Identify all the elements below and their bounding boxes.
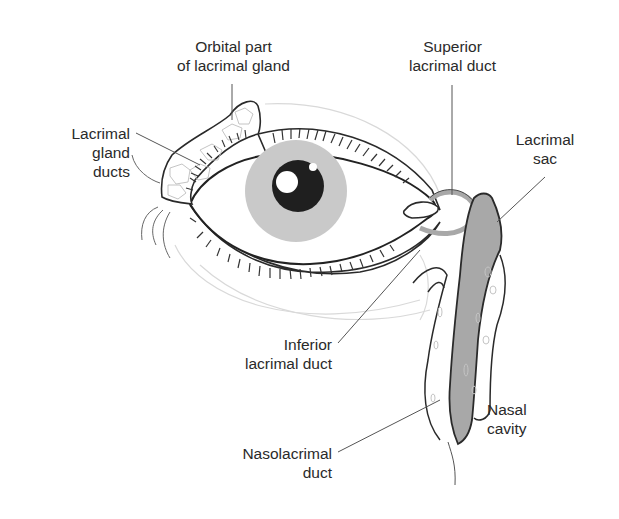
label-orbital-part-line1: Orbital part (156, 37, 311, 56)
lacrimal-apparatus-diagram (0, 0, 619, 519)
label-superior-duct-line1: Superior (390, 37, 515, 56)
label-nasolacrimal-duct-line2: duct (200, 463, 332, 482)
pupil-highlight-large (276, 171, 298, 193)
label-lacrimal-sac-line1: Lacrimal (505, 130, 585, 149)
label-superior-duct-line2: lacrimal duct (390, 56, 515, 75)
label-inferior-lacrimal-duct: Inferior lacrimal duct (200, 335, 332, 373)
label-nasal-cavity-line1: Nasal (487, 400, 557, 419)
nasal-cavity-edge (448, 442, 455, 485)
leader-nasolacrimal-duct (338, 400, 440, 452)
label-orbital-part: Orbital part of lacrimal gland (156, 37, 311, 75)
label-superior-lacrimal-duct: Superior lacrimal duct (390, 37, 515, 75)
label-lacrimal-sac-line2: sac (505, 149, 585, 168)
label-gland-ducts-line1: Lacrimal (40, 124, 130, 143)
label-inferior-duct-line1: Inferior (200, 335, 332, 354)
inferior-canaliculus (420, 224, 470, 234)
label-lacrimal-sac: Lacrimal sac (505, 130, 585, 168)
pupil-highlight-small (309, 163, 317, 171)
label-orbital-part-line2: of lacrimal gland (156, 56, 311, 75)
label-nasal-cavity: Nasal cavity (487, 400, 557, 438)
label-nasolacrimal-duct-line1: Nasolacrimal (200, 444, 332, 463)
label-gland-ducts-line2: gland (40, 143, 130, 162)
label-nasal-cavity-line2: cavity (487, 419, 557, 438)
label-nasolacrimal-duct: Nasolacrimal duct (200, 444, 332, 482)
label-gland-ducts-line3: ducts (40, 162, 130, 181)
label-inferior-duct-line2: lacrimal duct (200, 354, 332, 373)
label-lacrimal-gland-ducts: Lacrimal gland ducts (40, 124, 130, 181)
leader-lacrimal-sac (497, 177, 545, 222)
